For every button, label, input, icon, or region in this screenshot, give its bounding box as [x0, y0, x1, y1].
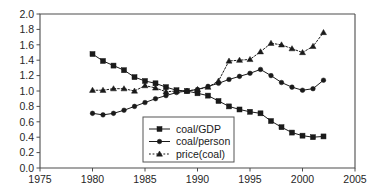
x-tick-label: 1990	[186, 173, 210, 185]
data-point-square	[206, 93, 211, 98]
chart-legend: coal/GDPcoal/personprice(coal)	[143, 117, 234, 162]
data-point-square	[132, 75, 137, 80]
y-tick-label: 0.6	[19, 116, 34, 128]
line-chart: 0.00.20.40.60.81.01.21.41.61.82.0 197519…	[0, 0, 372, 194]
y-tick-label: 0.0	[19, 162, 34, 174]
data-point-circle	[153, 96, 158, 101]
y-tick-label: 0.2	[19, 146, 34, 158]
y-tick-label: 1.2	[19, 69, 34, 81]
data-point-square	[157, 127, 162, 132]
chart-container: 0.00.20.40.60.81.01.21.41.61.82.0 197519…	[0, 0, 372, 194]
y-tick-label: 0.8	[19, 100, 34, 112]
data-point-square	[101, 58, 106, 63]
legend-label-price-coal-: price(coal)	[176, 148, 225, 160]
data-point-circle	[237, 74, 242, 79]
data-point-square	[248, 109, 253, 114]
x-tick-label: 1980	[81, 173, 105, 185]
data-point-circle	[143, 100, 148, 105]
data-point-square	[258, 111, 263, 116]
data-point-circle	[300, 88, 305, 93]
data-point-square	[237, 107, 242, 112]
data-point-square	[90, 52, 95, 57]
data-point-circle	[157, 139, 162, 144]
data-point-square	[290, 130, 295, 135]
y-tick-label: 2.0	[19, 8, 34, 20]
data-point-square	[321, 134, 326, 139]
x-tick-label: 1985	[133, 173, 157, 185]
data-point-circle	[111, 111, 116, 116]
data-point-circle	[279, 80, 284, 85]
data-point-square	[300, 133, 305, 138]
data-point-circle	[132, 104, 137, 109]
data-point-circle	[311, 86, 316, 91]
data-point-circle	[258, 67, 263, 72]
legend-label-coal-gdp: coal/GDP	[176, 123, 221, 135]
legend-label-coal-person: coal/person	[176, 135, 230, 147]
data-point-square	[122, 68, 127, 73]
data-point-circle	[248, 71, 253, 76]
data-point-circle	[290, 85, 295, 90]
data-point-circle	[101, 113, 106, 118]
data-point-square	[111, 63, 116, 68]
data-point-square	[311, 135, 316, 140]
y-tick-label: 0.4	[19, 131, 34, 143]
x-tick-label: 1975	[28, 173, 52, 185]
data-point-square	[227, 104, 232, 109]
data-point-square	[279, 125, 284, 130]
y-tick-label: 1.4	[19, 54, 34, 66]
x-tick-label: 2000	[291, 173, 315, 185]
data-point-circle	[321, 78, 326, 83]
data-point-circle	[90, 111, 95, 116]
x-tick-label: 2005	[343, 173, 367, 185]
data-point-circle	[122, 108, 127, 113]
y-tick-label: 1.6	[19, 39, 34, 51]
y-tick-label: 1.8	[19, 23, 34, 35]
data-point-square	[269, 119, 274, 124]
data-point-square	[216, 99, 221, 104]
data-point-circle	[227, 77, 232, 82]
y-tick-label: 1.0	[19, 85, 34, 97]
data-point-circle	[269, 73, 274, 78]
chart-background	[0, 0, 372, 194]
x-tick-label: 1995	[238, 173, 262, 185]
